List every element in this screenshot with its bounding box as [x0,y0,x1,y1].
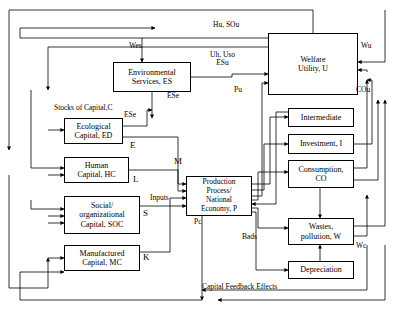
edge-u-out-hu-sou [20,28,268,38]
edge-wastes-wc-up [354,195,367,236]
node-wastes-pollution[interactable]: Wastes, pollution, W [288,218,354,245]
label-wes: Wes [129,42,142,50]
label-wc: Wc [356,242,366,250]
label-l: L [133,174,139,184]
node-depreciation[interactable]: Depreciation [288,261,354,279]
node-investment[interactable]: Investment, I [288,134,354,154]
edge-production-to-intermediate [252,117,288,184]
label-inputs: Inputs [150,194,169,202]
edge-wu-into-welfare [358,10,385,62]
label-stocks-of-capital: Stocks of Capital,C [54,103,113,112]
node-human-capital[interactable]: Human Capital, HC [64,157,129,183]
label-e: E [130,140,136,150]
label-s: S [143,208,148,218]
label-pc: Pc [194,218,202,226]
node-ecological-capital[interactable]: Ecological Capital, ED [64,118,123,144]
label-ese-left: ESe [124,111,136,119]
flow-diagram-canvas: Environmental Services, ES Welfare Utili… [0,0,396,312]
label-hu-sou: Hu, SOu [213,21,239,29]
edge-feedback-to-manufactured [20,272,202,300]
node-environmental-services[interactable]: Environmental Services, ES [113,62,191,92]
edge-cou-into-welfare [358,70,367,72]
node-social-organizational-capital[interactable]: Social/ organizational Capital, SOC [64,196,140,234]
label-ese-top: ESe [167,92,179,100]
edge-production-to-welfare-pu [252,83,268,196]
label-m: M [174,156,182,166]
node-welfare-utility[interactable]: Welfare Utility, U [268,33,358,95]
label-bads: Bads [242,233,257,241]
edge-production-to-depreciation [252,212,288,270]
label-wu: Wu [361,42,372,50]
edge-outer-left-loop [9,175,48,288]
edge-left-rail-to-social [31,200,64,209]
node-production-process[interactable]: Production Process/ National Economy, P [186,176,252,216]
edge-left-rail-to-human [31,90,64,168]
node-consumption[interactable]: Consumption, CO [288,160,354,188]
node-manufactured-capital[interactable]: Manufactured Capital, MC [64,245,140,271]
edge-production-bads-to-wastes [252,208,288,228]
label-capital-feedback-effects: Capital Feedback Effects [202,283,277,291]
label-uh-uso-esu: Uh, Uso ESu [210,51,235,68]
label-cou: COu [356,86,370,94]
edge-es-to-welfare-esu [191,74,268,77]
label-k: K [143,252,150,262]
node-intermediate[interactable]: Intermediate [288,108,354,127]
edge-wastes-to-wu-rail [354,100,385,226]
label-pu: Pu [234,86,242,94]
